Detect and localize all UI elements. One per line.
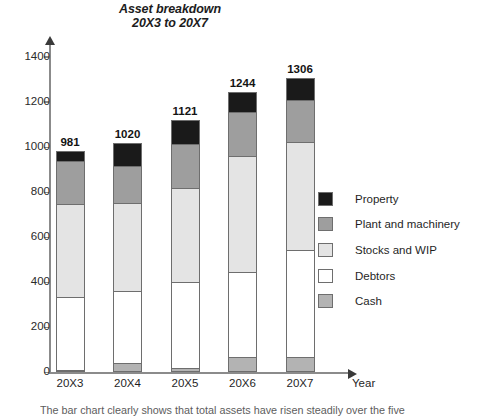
bar-segment-stocks-and-wip[interactable] <box>228 156 257 272</box>
figure-caption: The bar chart clearly shows that total a… <box>40 404 470 416</box>
bar-segment-property[interactable] <box>286 78 315 100</box>
bar-stack[interactable] <box>286 78 315 372</box>
x-axis-tick-label: 20X5 <box>155 377 215 390</box>
x-axis-line <box>49 372 349 374</box>
bar-segment-cash[interactable] <box>286 357 315 373</box>
bar-total-label: 1244 <box>213 77 273 89</box>
bar-segment-stocks-and-wip[interactable] <box>286 142 315 250</box>
bar-segment-stocks-and-wip[interactable] <box>56 204 85 297</box>
y-axis-tick-label: 800 <box>10 186 50 198</box>
bar-segment-cash[interactable] <box>171 368 200 373</box>
bar-total-label: 1121 <box>155 105 215 117</box>
legend-color-swatch <box>318 243 333 257</box>
bar-segment-property[interactable] <box>113 143 142 166</box>
bar-stack[interactable] <box>228 92 257 372</box>
y-axis-tick-label: 1400 <box>10 51 50 63</box>
x-axis-tick-label: 20X6 <box>213 377 273 390</box>
legend-item[interactable]: Plant and machinery <box>318 212 477 238</box>
y-axis-tick-label: 400 <box>10 276 50 288</box>
bar-segment-debtors[interactable] <box>171 282 200 368</box>
legend-item-label: Plant and machinery <box>355 218 460 230</box>
legend-item[interactable]: Stocks and WIP <box>318 237 477 263</box>
legend-item[interactable]: Property <box>318 186 477 212</box>
legend-item[interactable]: Debtors <box>318 263 477 289</box>
legend-color-swatch <box>318 269 333 283</box>
bar-segment-debtors[interactable] <box>286 250 315 357</box>
bar-stack[interactable] <box>113 143 142 373</box>
bar-stack[interactable] <box>171 120 200 373</box>
bar-segment-plant-and-machinery[interactable] <box>228 112 257 156</box>
bar-segment-plant-and-machinery[interactable] <box>113 166 142 203</box>
legend-item-label: Property <box>355 193 398 205</box>
bar-segment-plant-and-machinery[interactable] <box>56 161 85 204</box>
x-axis-tick-label: 20X3 <box>40 377 100 390</box>
legend-item-label: Debtors <box>355 270 395 282</box>
y-axis-arrow-icon <box>45 36 55 45</box>
bar-segment-plant-and-machinery[interactable] <box>171 144 200 188</box>
bar-segment-property[interactable] <box>56 151 85 162</box>
bar-segment-debtors[interactable] <box>56 297 85 371</box>
bar-stack[interactable] <box>56 151 85 373</box>
bar-segment-debtors[interactable] <box>113 291 142 364</box>
legend-color-swatch <box>318 217 333 231</box>
bar-segment-cash[interactable] <box>228 357 257 373</box>
legend-item[interactable]: Cash <box>318 288 477 314</box>
x-axis-title: Year <box>352 377 375 389</box>
legend-color-swatch <box>318 192 333 206</box>
bar-segment-property[interactable] <box>171 120 200 144</box>
chart-legend: PropertyPlant and machineryStocks and WI… <box>318 186 477 314</box>
bar-segment-property[interactable] <box>228 92 257 112</box>
bar-total-label: 1306 <box>270 63 330 75</box>
bar-segment-cash[interactable] <box>56 370 85 372</box>
bar-segment-stocks-and-wip[interactable] <box>113 203 142 291</box>
bar-segment-debtors[interactable] <box>228 272 257 356</box>
bar-total-label: 1020 <box>98 128 158 140</box>
y-axis-tick-label: 200 <box>10 321 50 333</box>
x-axis-tick-label: 20X7 <box>270 377 330 390</box>
legend-item-label: Cash <box>355 295 382 307</box>
bar-segment-stocks-and-wip[interactable] <box>171 188 200 282</box>
y-axis-tick-label: 1200 <box>10 96 50 108</box>
legend-item-label: Stocks and WIP <box>355 244 437 256</box>
legend-color-swatch <box>318 294 333 308</box>
x-axis-tick-label: 20X4 <box>98 377 158 390</box>
bar-total-label: 981 <box>40 136 100 148</box>
bar-segment-plant-and-machinery[interactable] <box>286 100 315 142</box>
bar-segment-cash[interactable] <box>113 363 142 372</box>
y-axis-tick-label: 600 <box>10 231 50 243</box>
